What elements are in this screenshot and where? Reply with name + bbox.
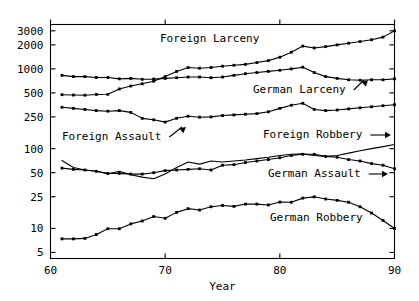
series-marker-foreign-assault	[175, 117, 178, 120]
series-marker-german-robbery	[221, 204, 224, 207]
series-marker-german-larceny	[290, 67, 293, 70]
y-tick-label: 25	[30, 191, 43, 204]
series-marker-german-larceny	[129, 77, 132, 80]
series-marker-foreign-larceny	[290, 51, 293, 54]
series-marker-foreign-assault	[313, 108, 316, 111]
series-marker-german-robbery	[301, 197, 304, 200]
series-marker-german-larceny	[84, 75, 87, 78]
series-marker-foreign-larceny	[141, 82, 144, 85]
series-marker-german-assault	[278, 156, 281, 159]
series-marker-foreign-larceny	[347, 42, 350, 45]
y-tick-label: 50	[30, 167, 43, 180]
series-marker-foreign-assault	[278, 107, 281, 110]
series-marker-german-larceny	[95, 76, 98, 79]
y-tick-label: 3000	[17, 25, 44, 38]
series-marker-foreign-assault	[221, 114, 224, 117]
series-marker-foreign-assault	[347, 108, 350, 111]
series-marker-german-assault	[61, 167, 64, 170]
series-marker-german-assault	[198, 167, 201, 170]
series-marker-german-larceny	[233, 74, 236, 77]
series-marker-foreign-larceny	[233, 64, 236, 67]
series-marker-foreign-larceny	[221, 65, 224, 68]
series-marker-german-assault	[141, 173, 144, 176]
series-marker-german-assault	[347, 158, 350, 161]
series-marker-foreign-assault	[244, 113, 247, 116]
series-marker-german-robbery	[84, 237, 87, 240]
series-marker-german-larceny	[267, 70, 270, 73]
series-marker-foreign-larceny	[244, 63, 247, 66]
series-marker-foreign-assault	[95, 109, 98, 112]
y-tick-label: 10	[30, 222, 43, 235]
series-marker-german-larceny	[187, 76, 190, 79]
series-marker-german-larceny	[221, 76, 224, 79]
series-marker-foreign-assault	[370, 105, 373, 108]
series-marker-foreign-larceny	[370, 38, 373, 41]
series-marker-foreign-assault	[359, 106, 362, 109]
series-marker-foreign-larceny	[267, 59, 270, 62]
series-marker-foreign-larceny	[129, 85, 132, 88]
series-marker-german-robbery	[267, 204, 270, 207]
series-marker-german-assault	[118, 172, 121, 175]
series-marker-foreign-larceny	[72, 94, 75, 97]
series-marker-german-larceny	[198, 76, 201, 79]
series-marker-foreign-larceny	[175, 70, 178, 73]
series-marker-foreign-assault	[72, 107, 75, 110]
series-marker-german-robbery	[278, 201, 281, 204]
series-marker-foreign-larceny	[61, 93, 64, 96]
series-marker-foreign-assault	[290, 104, 293, 107]
series-marker-german-larceny	[164, 77, 167, 80]
series-marker-german-larceny	[278, 69, 281, 72]
annotation-label-german-assault: German Assault	[268, 167, 361, 180]
series-marker-foreign-larceny	[382, 36, 385, 39]
series-marker-german-assault	[267, 158, 270, 161]
series-marker-foreign-larceny	[393, 29, 396, 32]
series-marker-foreign-assault	[210, 116, 213, 119]
series-marker-foreign-assault	[324, 109, 327, 112]
series-marker-foreign-assault	[152, 118, 155, 121]
y-tick-label: 500	[24, 87, 44, 100]
series-marker-foreign-larceny	[301, 45, 304, 48]
crime-rates-log-line-chart: 510255010025050010002000300060708090Year…	[0, 0, 419, 301]
series-marker-german-robbery	[95, 233, 98, 236]
series-marker-german-robbery	[336, 199, 339, 202]
annotation-label-german-larceny: German Larceny	[253, 83, 346, 96]
series-marker-german-larceny	[106, 76, 109, 79]
x-tick-label: 70	[159, 264, 172, 277]
chart-container: 510255010025050010002000300060708090Year…	[0, 0, 419, 301]
x-tick-label: 60	[44, 264, 57, 277]
series-marker-german-assault	[382, 164, 385, 167]
series-marker-german-robbery	[175, 211, 178, 214]
series-marker-german-robbery	[244, 203, 247, 206]
series-marker-german-robbery	[129, 223, 132, 226]
series-marker-foreign-assault	[118, 109, 121, 112]
series-marker-german-larceny	[210, 76, 213, 79]
series-marker-german-larceny	[324, 75, 327, 78]
series-marker-german-assault	[370, 162, 373, 165]
series-marker-german-robbery	[256, 203, 259, 206]
annotation-label-foreign-larceny: Foreign Larceny	[160, 32, 260, 45]
series-marker-german-robbery	[198, 209, 201, 212]
series-marker-german-assault	[187, 168, 190, 171]
series-marker-german-larceny	[347, 78, 350, 81]
series-marker-german-larceny	[359, 79, 362, 82]
series-marker-german-assault	[256, 160, 259, 163]
series-marker-foreign-assault	[198, 116, 201, 119]
series-marker-foreign-assault	[393, 103, 396, 106]
series-marker-foreign-assault	[382, 104, 385, 107]
series-marker-german-larceny	[244, 72, 247, 75]
series-marker-foreign-assault	[141, 117, 144, 120]
series-marker-foreign-larceny	[187, 66, 190, 69]
series-line-foreign-assault	[62, 103, 395, 122]
series-marker-german-assault	[233, 163, 236, 166]
series-marker-german-assault	[393, 167, 396, 170]
series-marker-german-larceny	[393, 77, 396, 80]
series-marker-german-robbery	[393, 227, 396, 230]
series-marker-german-assault	[359, 160, 362, 163]
series-marker-foreign-larceny	[95, 93, 98, 96]
series-marker-german-robbery	[313, 195, 316, 198]
series-marker-german-robbery	[187, 207, 190, 210]
series-marker-german-assault	[221, 164, 224, 167]
series-marker-german-assault	[210, 169, 213, 172]
series-marker-german-assault	[72, 168, 75, 171]
annotation-arrowhead-german-assault	[382, 171, 388, 177]
